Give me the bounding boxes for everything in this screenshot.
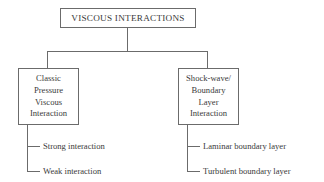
root-node-viscous-interactions: VISCOUS INTERACTIONS [60,8,196,28]
root-node-label: VISCOUS INTERACTIONS [71,13,184,23]
leaf-label-laminar-boundary-layer: Laminar boundary layer [203,141,286,151]
leaf-label-turbulent-boundary-layer: Turbulent boundary layer [203,166,291,176]
branch-left-line-2: Pressure [34,85,63,97]
branch-node-shock-wave-boundary-layer-interaction: Shock-wave/ Boundary Layer Interaction [178,68,239,125]
branch-right-line-1: Shock-wave/ [186,73,231,85]
leaf-label-strong-interaction: Strong interaction [43,141,105,151]
branch-left-line-4: Interaction [30,108,67,120]
branch-right-line-2: Boundary [192,85,226,97]
branch-right-line-4: Interaction [190,108,227,120]
viscous-interactions-diagram: VISCOUS INTERACTIONS Classic Pressure Vi… [0,0,324,182]
branch-node-classic-pressure-viscous-interaction: Classic Pressure Viscous Interaction [18,68,79,125]
branch-left-line-1: Classic [36,73,61,85]
branch-right-line-3: Layer [198,97,218,109]
leaf-label-weak-interaction: Weak interaction [43,166,101,176]
branch-left-line-3: Viscous [35,97,62,109]
